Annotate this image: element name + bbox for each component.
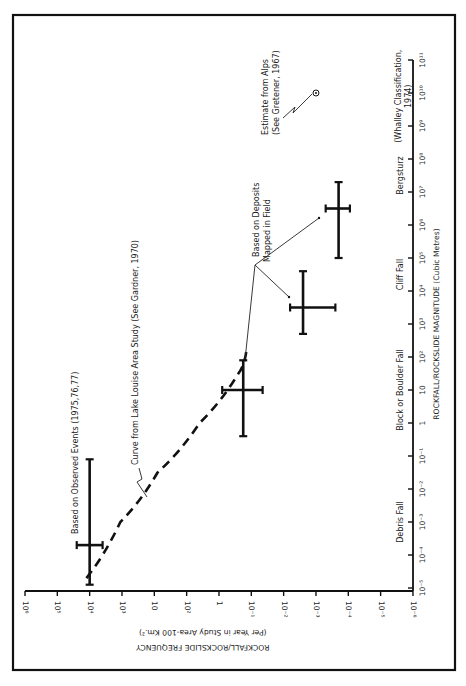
lake-louise-curve: [86, 350, 246, 578]
frequency-tick-label: 10⁻³: [312, 601, 321, 618]
frequency-tick-label: 10⁻¹: [247, 601, 256, 618]
x-axis-title: ROCKFALL/ROCKSLIDE MAGNITUDE (Cubic Metr…: [432, 228, 441, 419]
deposits-label-line1: Based on Deposits: [252, 183, 261, 257]
frequency-tick-label: 10⁴: [86, 601, 95, 614]
magnitude-tick-label: 10¹⁰: [418, 85, 427, 101]
curve-label-leader: [137, 468, 147, 497]
magnitude-tick-label: 10⁻⁴: [418, 547, 427, 564]
lake-louise-curve-label: Curve from Lake Louise Area Study (See G…: [131, 240, 140, 465]
y-axis-subtitle: (Per Year in Study Area-100 Km.²): [139, 628, 267, 637]
magnitude-tick-label: 10⁷: [418, 186, 427, 199]
alps-label-line2: (See Gretener, 1967): [272, 50, 281, 135]
magnitude-tick-label: 10⁻⁵: [418, 580, 427, 597]
classification-note: (Whalley Classification,: [394, 50, 403, 143]
frequency-tick-label: 10: [150, 601, 159, 611]
frequency-tick-label: 10⁻⁶: [409, 601, 418, 618]
frequency-tick-label: 10³: [118, 601, 127, 614]
frequency-tick-label: 10²: [183, 601, 192, 614]
magnitude-tick-label: 10¹¹: [418, 52, 427, 68]
alps-estimate-dot: [315, 92, 317, 94]
magnitude-tick-label: 10⁴: [418, 285, 427, 298]
deposit-cross-2: [326, 182, 350, 258]
magnitude-tick-label: 10⁹: [418, 120, 427, 133]
alps-label-leader: [283, 94, 312, 118]
magnitude-tick-label: 10³: [418, 318, 427, 331]
magnitude-tick-label: 10⁶: [418, 219, 427, 232]
rockfall-frequency-magnitude-chart: 10⁻⁵10⁻⁴10⁻³10⁻²10⁻¹11010²10³10⁴10⁵10⁶10…: [0, 0, 466, 686]
class-label: Cliff Fall: [396, 259, 405, 290]
magnitude-tick-label: 10⁻¹: [418, 448, 427, 465]
class-label: Block or Boulder Fall: [396, 349, 405, 431]
magnitude-tick-label: 10⁵: [418, 252, 427, 265]
magnitude-tick-label: 10⁻²: [418, 481, 427, 498]
alps-label-line1: Estimate from Alps: [261, 59, 270, 135]
frequency-tick-label: 10⁶: [21, 601, 30, 614]
plot-area: [77, 90, 350, 585]
deposit-cross-0: [222, 360, 262, 436]
chart-canvas: 10⁻⁵10⁻⁴10⁻³10⁻²10⁻¹11010²10³10⁴10⁵10⁶10…: [0, 0, 466, 686]
magnitude-tick-label: 1: [418, 420, 427, 425]
frequency-tick-label: 10⁵: [53, 601, 62, 614]
y-axis-title: ROCKFALL/ROCKSLIDE FREQUENCY: [136, 643, 270, 652]
deposits-leader-cliff: [255, 265, 289, 297]
annotations: Based on Observed Events (1975,76,77)Cur…: [71, 50, 320, 534]
frequency-tick-label: 10⁻⁵: [377, 601, 386, 618]
deposits-label-line2: Mapped in Field: [263, 199, 272, 262]
frequency-tick-label: 10⁻⁴: [344, 601, 353, 618]
magnitude-tick-label: 10⁸: [418, 153, 427, 166]
frequency-tick-label: 1: [215, 601, 224, 606]
classification-note-year: 1974): [404, 85, 413, 108]
observed-events-cross: [77, 459, 103, 584]
frequency-tick-label: 10⁻²: [280, 601, 289, 618]
deposit-cross-1: [290, 271, 335, 334]
deposits-leader-block: [245, 265, 255, 360]
magnitude-tick-label: 10⁻³: [418, 514, 427, 531]
observed-events-label: Based on Observed Events (1975,76,77): [71, 372, 80, 534]
axes: 10⁻⁵10⁻⁴10⁻³10⁻²10⁻¹11010²10³10⁴10⁵10⁶10…: [21, 50, 441, 652]
class-label: Debris Fall: [396, 501, 405, 543]
class-label: Bergsturz: [396, 156, 405, 195]
magnitude-tick-label: 10: [418, 385, 427, 395]
figure-frame: [13, 15, 455, 670]
magnitude-tick-label: 10²: [418, 351, 427, 364]
